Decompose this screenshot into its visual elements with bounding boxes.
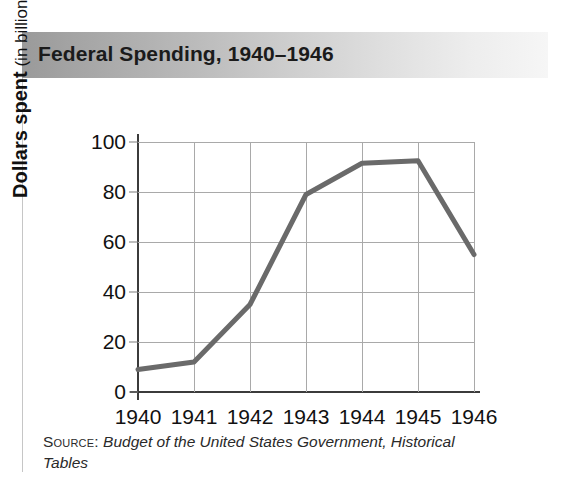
y-tick-mark — [129, 342, 138, 343]
plot-area: 020406080100 194019411942194319441945194… — [138, 142, 474, 392]
source-citation: Budget of the United States Government, … — [43, 433, 455, 471]
y-tick-label: 100 — [91, 130, 126, 154]
y-tick-mark — [129, 192, 138, 193]
source-note: Source: Budget of the United States Gove… — [43, 432, 503, 474]
chart-title-bar: Federal Spending, 1940–1946 — [22, 32, 548, 78]
x-tick-label: 1946 — [451, 405, 498, 429]
y-tick-label: 80 — [103, 180, 126, 204]
y-tick-mark — [129, 242, 138, 243]
y-axis-title-main: Dollars spent — [9, 71, 31, 198]
y-tick-label: 40 — [103, 280, 126, 304]
data-line-series — [138, 161, 474, 370]
data-line-svg — [138, 142, 474, 392]
y-axis-title: Dollars spent (in billions) — [9, 0, 32, 198]
x-tick-label: 1943 — [283, 405, 330, 429]
y-tick-label: 20 — [103, 330, 126, 354]
figure-container: Federal Spending, 1940–1946 Dollars spen… — [22, 32, 548, 472]
y-tick-mark — [129, 392, 138, 393]
x-tick-label: 1944 — [339, 405, 386, 429]
chart-frame: Dollars spent (in billions) 020406080100… — [22, 78, 548, 472]
x-tick-label: 1942 — [227, 405, 274, 429]
y-tick-mark — [129, 292, 138, 293]
y-tick-mark — [129, 142, 138, 143]
source-label: Source: — [43, 433, 99, 450]
x-tick-label: 1945 — [395, 405, 442, 429]
y-tick-label: 60 — [103, 230, 126, 254]
x-tick-label: 1940 — [115, 405, 162, 429]
y-axis-title-unit: (in billions) — [12, 0, 31, 67]
y-tick-label: 0 — [114, 380, 126, 404]
gridline-vertical — [474, 142, 475, 392]
page-title: Federal Spending, 1940–1946 — [38, 42, 334, 66]
x-tick-label: 1941 — [171, 405, 218, 429]
